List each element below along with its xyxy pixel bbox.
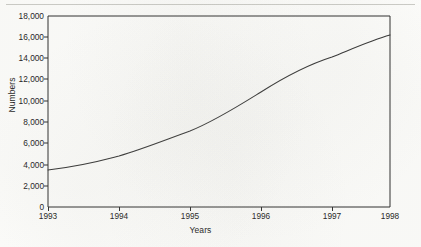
x-tick-label: 1994 — [99, 211, 139, 221]
x-tick-label: 1995 — [170, 211, 210, 221]
line-chart-figure: Numbers 0 2,000 4,000 6,000 8,000 10,000… — [0, 0, 421, 247]
x-axis-title-wrap: Years — [0, 225, 421, 235]
x-tick-label: 1997 — [312, 211, 352, 221]
plot-frame — [48, 16, 390, 207]
x-tick-label: 1993 — [28, 211, 68, 221]
plot-area — [0, 0, 421, 247]
data-series-line — [48, 35, 390, 170]
x-axis-title: Years — [190, 225, 212, 235]
x-tick-label: 1996 — [241, 211, 281, 221]
x-tick-label: 1998 — [370, 211, 410, 221]
